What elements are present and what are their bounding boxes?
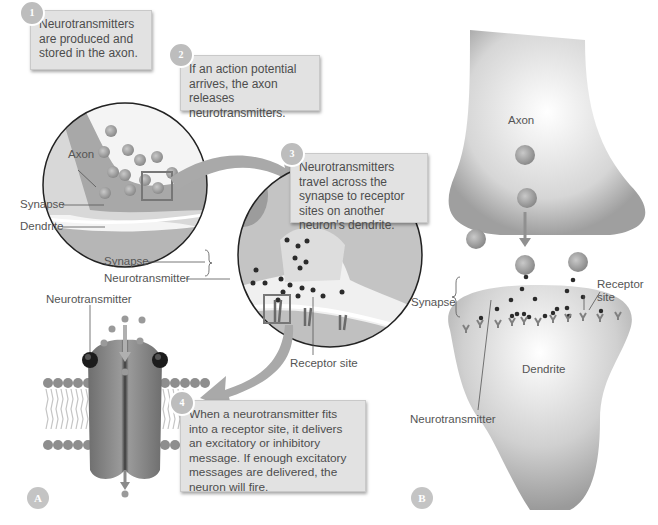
step-3-badge: 3 (279, 141, 305, 167)
synapse-overview (448, 30, 645, 510)
label-neurotransmitter-b: Neurotransmitter (410, 413, 496, 425)
label-axon-b: Axon (508, 114, 534, 126)
label-dendrite-b: Dendrite (522, 363, 565, 375)
step-4-callout: When a neurotransmitter fits into a rece… (180, 400, 366, 492)
step-3-callout: Neurotransmitters travel across the syna… (290, 153, 428, 223)
step-4-text: When a neurotransmitter fits into a rece… (189, 407, 346, 494)
label-neurotransmitter-zoom: Neurotransmitter (104, 272, 190, 284)
label-dendrite-a: Dendrite (20, 220, 63, 232)
step-3-text: Neurotransmitters travel across the syna… (299, 160, 404, 232)
label-neurotransmitter-channel: Neurotransmitter (46, 293, 132, 305)
step-1-text: Neurotransmitters are produced and store… (39, 17, 138, 60)
panel-label-b: B (411, 487, 433, 509)
label-axon-a: Axon (68, 148, 94, 160)
panel-label-a: A (27, 487, 49, 509)
label-synapse-zoom: Synapse (104, 255, 149, 267)
step-2-text: If an action potential arrives, the axon… (189, 62, 296, 120)
step-2-badge: 2 (168, 42, 194, 68)
zoom-arrow-2 (200, 325, 293, 410)
step-4-badge: 4 (169, 390, 195, 416)
label-receptor-site-a: Receptor site (290, 357, 358, 369)
step-1-callout: Neurotransmitters are produced and store… (30, 10, 152, 70)
label-synapse-a: Synapse (20, 198, 65, 210)
label-receptor-b-1: Receptor (597, 278, 644, 290)
label-synapse-b: Synapse (411, 296, 456, 308)
step-1-badge: 1 (19, 0, 45, 26)
label-receptor-b-2: site (597, 291, 615, 303)
step-2-callout: If an action potential arrives, the axon… (180, 55, 320, 111)
